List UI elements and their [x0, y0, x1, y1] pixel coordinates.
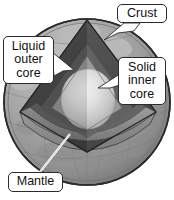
label-liquid-outer-core: Liquid outer core	[3, 36, 54, 84]
label-mantle: Mantle	[8, 172, 63, 192]
label-crust: Crust	[117, 4, 167, 23]
label-solid-inner-core: Solid inner core	[118, 57, 166, 105]
